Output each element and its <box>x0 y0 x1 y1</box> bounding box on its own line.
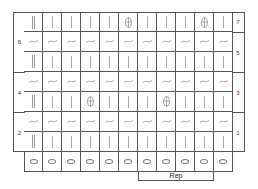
stitch-cell <box>62 52 81 72</box>
purl-wave-icon <box>105 120 114 123</box>
stitch-cell <box>100 152 119 172</box>
stitch-cell <box>138 112 157 132</box>
bobble-icon <box>163 96 170 107</box>
stitch-cell <box>195 32 214 52</box>
cast-on-icon <box>162 159 170 164</box>
stitch-cell <box>43 32 62 52</box>
knit-stitch-icon <box>166 16 167 28</box>
knit-stitch-icon <box>109 56 110 68</box>
stitch-cell <box>62 152 81 172</box>
stitch-cell <box>24 12 43 32</box>
purl-wave-icon <box>29 40 38 43</box>
purl-wave-icon <box>200 40 209 43</box>
repeat-label: Rep <box>170 172 183 180</box>
purl-wave-icon <box>200 80 209 83</box>
knit-stitch-icon <box>52 136 53 148</box>
stitch-cell <box>195 72 214 92</box>
knit-stitch-icon <box>223 96 224 108</box>
stitch-cell <box>100 52 119 72</box>
stitch-cell <box>195 152 214 172</box>
stitch-cell <box>62 92 81 112</box>
stitch-cell <box>157 32 176 52</box>
stitch-cell <box>176 132 195 152</box>
stitch-cell <box>176 92 195 112</box>
stitch-cell <box>157 92 176 112</box>
stitch-cell <box>138 92 157 112</box>
knit-stitch-icon <box>128 96 129 108</box>
stitch-cell <box>81 92 100 112</box>
purl-wave-icon <box>67 80 76 83</box>
purl-wave-icon <box>181 40 190 43</box>
knit-stitch-icon <box>185 16 186 28</box>
knit-stitch-icon <box>109 96 110 108</box>
stitch-cell <box>138 72 157 92</box>
stitch-cell <box>81 132 100 152</box>
stitch-cell <box>81 112 100 132</box>
knit-stitch-icon <box>147 136 148 148</box>
stitch-cell <box>138 32 157 52</box>
stitch-cell <box>119 12 138 32</box>
stitch-cell <box>176 152 195 172</box>
stitch-cell <box>214 92 233 112</box>
stitch-cell <box>62 32 81 52</box>
stitch-cell <box>43 92 62 112</box>
knit-stitch-icon <box>166 136 167 148</box>
stitch-cell <box>100 132 119 152</box>
purl-wave-icon <box>86 40 95 43</box>
stitch-cell <box>138 152 157 172</box>
purl-wave-icon <box>29 120 38 123</box>
purl-wave-icon <box>29 80 38 83</box>
stitch-cell <box>195 52 214 72</box>
purl-wave-icon <box>162 120 171 123</box>
stitch-cell <box>24 152 43 172</box>
stitch-cell <box>214 72 233 92</box>
stitch-cell <box>100 32 119 52</box>
stitch-cell <box>214 12 233 32</box>
cast-on-icon <box>124 159 132 164</box>
stitch-cell <box>24 52 43 72</box>
stitch-cell <box>157 112 176 132</box>
stitch-cell <box>24 112 43 132</box>
cast-on-icon <box>143 159 151 164</box>
knit-stitch-icon <box>90 136 91 148</box>
purl-wave-icon <box>48 80 57 83</box>
stitch-cell <box>100 72 119 92</box>
knit-stitch-icon <box>147 16 148 28</box>
stitch-cell <box>43 152 62 172</box>
purl-wave-icon <box>162 80 171 83</box>
knit-stitch-icon <box>223 16 224 28</box>
cast-on-icon <box>219 159 227 164</box>
knit-stitch-icon <box>204 56 205 68</box>
purl-wave-icon <box>86 80 95 83</box>
knit-stitch-icon <box>147 96 148 108</box>
stitch-cell <box>62 12 81 32</box>
purl-wave-icon <box>105 80 114 83</box>
stitch-cell <box>195 12 214 32</box>
knit-stitch-icon <box>71 16 72 28</box>
bobble-icon <box>201 17 208 28</box>
stitch-cell <box>176 52 195 72</box>
right-label-column: 7531 <box>232 12 245 152</box>
stitch-cell <box>195 92 214 112</box>
knit-stitch-icon <box>204 96 205 108</box>
twisted-stitch-icon <box>32 95 35 108</box>
knit-stitch-icon <box>128 56 129 68</box>
stitch-cell <box>214 132 233 152</box>
knit-stitch-icon <box>166 56 167 68</box>
purl-wave-icon <box>143 80 152 83</box>
stitch-cell <box>157 132 176 152</box>
bobble-icon <box>125 17 132 28</box>
stitch-cell <box>24 132 43 152</box>
purl-wave-icon <box>105 40 114 43</box>
stitch-cell <box>119 72 138 92</box>
stitch-cell <box>214 152 233 172</box>
stitch-cell <box>138 12 157 32</box>
stitch-cell <box>138 132 157 152</box>
knit-stitch-icon <box>147 56 148 68</box>
stitch-cell <box>214 32 233 52</box>
stitch-cell <box>176 72 195 92</box>
purl-wave-icon <box>67 40 76 43</box>
stitch-cell <box>214 112 233 132</box>
purl-wave-icon <box>124 40 133 43</box>
stitch-cell <box>24 92 43 112</box>
